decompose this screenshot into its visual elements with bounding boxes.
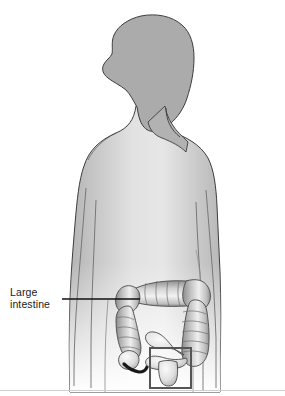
anatomy-illustration bbox=[0, 0, 285, 396]
rectum bbox=[159, 361, 178, 387]
label-large-intestine: Large intestine bbox=[10, 286, 66, 310]
head-profile bbox=[103, 15, 194, 131]
figure-root: Large intestine bbox=[0, 0, 285, 396]
